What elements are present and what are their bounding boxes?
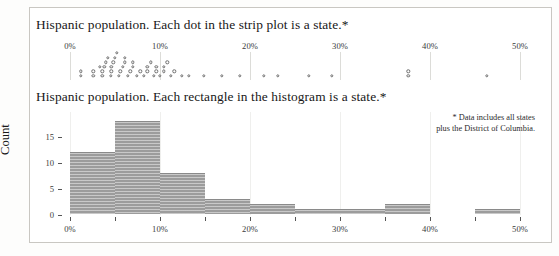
histogram-x-tick-mark [385, 217, 386, 221]
histogram-x-tick-mark [475, 217, 476, 221]
footnote-line-1: * Data includes all states [365, 113, 535, 124]
histogram-y-axis-label: Count [0, 124, 13, 155]
histogram-x-tick-mark [205, 217, 206, 221]
histogram-bar [475, 209, 520, 214]
histogram-bar [160, 173, 205, 214]
histogram-x-tick-mark [250, 217, 251, 221]
histogram-x-tick-label: 0% [64, 224, 75, 234]
figure-canvas: Hispanic population. Each dot in the str… [0, 0, 559, 256]
histogram-bar [70, 152, 115, 214]
histogram-x-tick-mark [430, 217, 431, 221]
histogram-y-tick-mark [58, 163, 62, 164]
histogram-x-tick-label: 50% [512, 224, 528, 234]
histogram-x-tick-mark [115, 217, 116, 221]
histogram-gridline [340, 112, 341, 215]
histogram-y-tick-mark [58, 137, 62, 138]
histogram-bar [385, 204, 430, 214]
histogram-y-tick-label: 15 [40, 132, 54, 142]
footnote: * Data includes all states plus the Dist… [365, 113, 535, 134]
histogram-x-tick-mark [160, 217, 161, 221]
footnote-line-2: plus the District of Columbia. [365, 124, 535, 135]
histogram-y-tick-label: 10 [40, 158, 54, 168]
histogram-bar [340, 209, 385, 214]
histogram-y-tick-mark [58, 189, 62, 190]
histogram-gridline [250, 112, 251, 215]
histogram-x-tick-mark [70, 217, 71, 221]
histogram-title: Hispanic population. Each rectangle in t… [36, 89, 386, 105]
histogram-y-tick-mark [58, 215, 62, 216]
histogram-x-tick-label: 40% [422, 224, 438, 234]
histogram-x-tick-label: 20% [242, 224, 258, 234]
histogram-x-tick-mark [520, 217, 521, 221]
histogram-y-tick-label: 0 [40, 210, 54, 220]
histogram-x-tick-mark [295, 217, 296, 221]
histogram-bar [205, 199, 250, 215]
histogram-bar [115, 121, 160, 214]
histogram-x-tick-mark [340, 217, 341, 221]
histogram-bar [295, 209, 340, 214]
histogram-x-tick-label: 10% [152, 224, 168, 234]
histogram-bar [250, 204, 295, 214]
histogram-x-tick-label: 30% [332, 224, 348, 234]
histogram-y-tick-label: 5 [40, 184, 54, 194]
